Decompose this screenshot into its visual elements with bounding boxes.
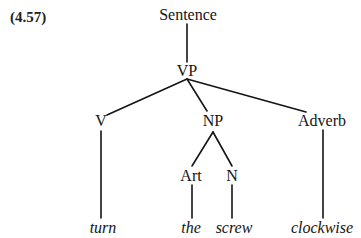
- node-adverb: Adverb: [298, 113, 346, 129]
- leaf-screw: screw: [216, 220, 253, 236]
- node-n: N: [226, 168, 238, 184]
- leaf-the: the: [181, 220, 201, 236]
- edge-np-n: [213, 132, 232, 166]
- leaf-turn: turn: [90, 220, 117, 236]
- node-v: V: [95, 113, 107, 129]
- node-sentence: Sentence: [159, 7, 217, 23]
- node-np: NP: [203, 113, 223, 129]
- edge-vp-v: [107, 79, 187, 115]
- node-vp: VP: [177, 63, 197, 79]
- edge-np-art: [192, 132, 213, 166]
- leaf-clockwise: clockwise: [291, 220, 353, 236]
- node-art: Art: [180, 168, 201, 184]
